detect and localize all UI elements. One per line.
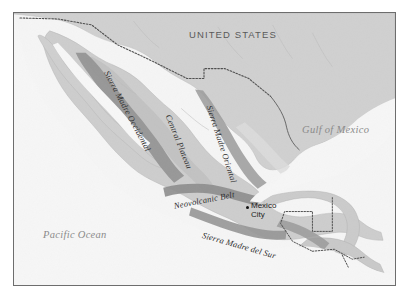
map-frame: UNITED STATES Pacific Ocean Gulf of Mexi…: [13, 12, 396, 286]
map-canvas: [14, 13, 395, 285]
map-figure: UNITED STATES Pacific Ocean Gulf of Mexi…: [0, 0, 419, 303]
mexico-city-dot: [246, 206, 249, 209]
paper-grain-overlay: [14, 13, 395, 285]
